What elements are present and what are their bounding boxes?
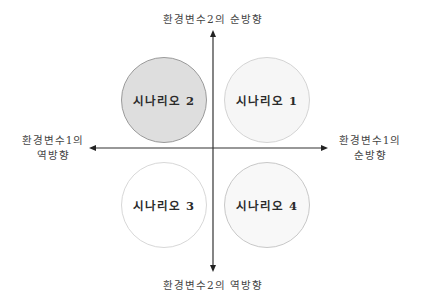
left-axis-label-line1: 환경변수1의 (18, 133, 88, 148)
scenario-2-circle: 시나리오 2 (121, 57, 207, 143)
scenario-3-circle: 시나리오 3 (121, 162, 207, 248)
top-axis-label: 환경변수2의 순방향 (0, 12, 426, 27)
arrow-right-icon (321, 145, 328, 151)
scenario-1-circle: 시나리오 1 (224, 57, 310, 143)
scenario-4-label: 시나리오 4 (236, 197, 298, 213)
right-axis-label-line1: 환경변수1의 (334, 133, 406, 148)
bottom-axis-label: 환경변수2의 역방향 (0, 278, 426, 293)
right-axis-label: 환경변수1의 순방향 (334, 133, 406, 163)
arrow-down-icon (210, 265, 216, 272)
scenario-3-label: 시나리오 3 (133, 197, 195, 213)
left-axis-label-line2: 역방향 (18, 148, 88, 163)
arrow-up-icon (210, 30, 216, 37)
right-axis-label-line2: 순방향 (334, 148, 406, 163)
scenario-4-circle: 시나리오 4 (224, 162, 310, 248)
arrow-left-icon (89, 145, 96, 151)
left-axis-label: 환경변수1의 역방향 (18, 133, 88, 163)
scenario-2-label: 시나리오 2 (133, 92, 195, 108)
scenario-1-label: 시나리오 1 (236, 92, 298, 108)
